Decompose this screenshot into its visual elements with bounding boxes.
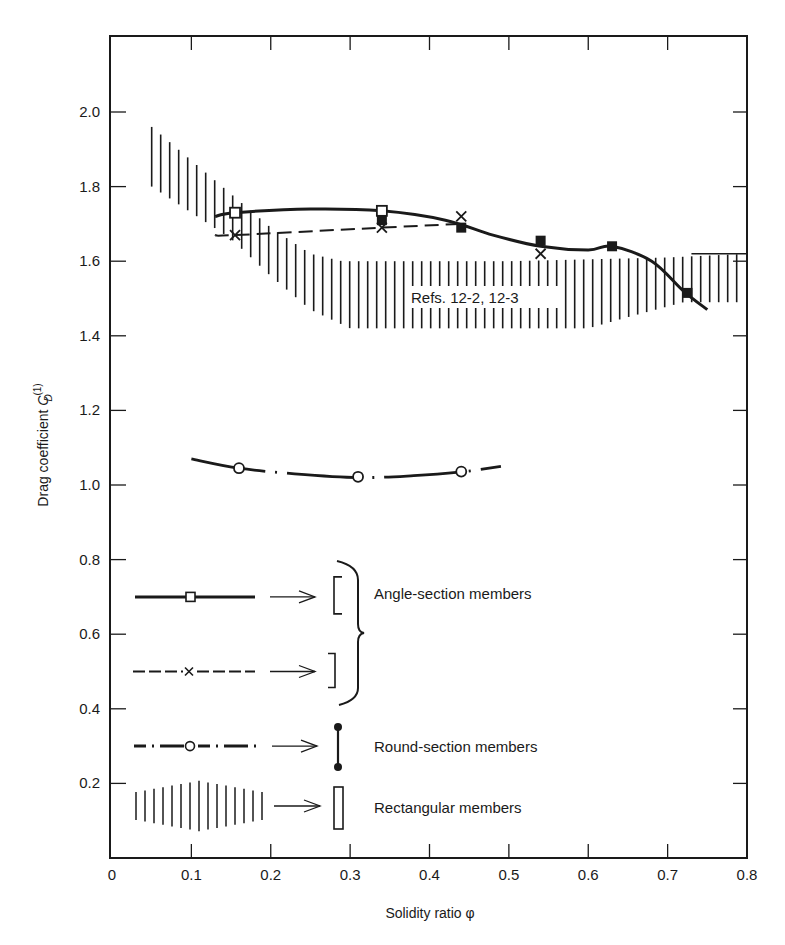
open-circle-marker [456,467,466,477]
x-tick-label: 0 [108,866,116,883]
axis-ticks: 00.10.20.30.40.50.60.70.80.20.40.60.81.0… [79,36,757,883]
x-axis-title: Solidity ratio φ [385,905,474,921]
angle-section-dashed-curve [215,224,461,236]
refs-annotation: Refs. 12-2, 12-3 [411,289,519,306]
x-tick-label: 0.3 [340,866,361,883]
x-tick-label: 0.1 [181,866,202,883]
x-tick-label: 0.5 [498,866,519,883]
rectangular-section-glyph [334,787,343,829]
x-tick-label: 0.7 [657,866,678,883]
angle-section-closed-glyph [328,654,335,688]
y-axis-title: Drag coefficient C(1)D [32,383,54,506]
x-marker [456,211,466,221]
svg-text:Drag coefficient C(1)D: Drag coefficient C(1)D [32,383,54,506]
axes-frame [110,36,747,858]
y-tick-label: 1.8 [79,178,100,195]
y-tick-label: 1.6 [79,252,100,269]
x-tick-label: 0.4 [419,866,440,883]
legend-label-angle: Angle-section members [374,585,532,602]
y-axis-title-sup: (1) [32,383,43,395]
y-axis-title-main: Drag coefficient [35,406,51,507]
y-tick-label: 0.6 [79,625,100,642]
filled-square-marker [682,288,692,298]
angle-section-brace [337,561,364,705]
x-marker [536,249,546,259]
drag-coefficient-chart: 00.10.20.30.40.50.60.70.80.20.40.60.81.0… [0,0,785,945]
open-square-marker [377,206,387,216]
angle-section-open-glyph [334,577,342,614]
y-tick-label: 2.0 [79,103,100,120]
y-tick-label: 1.2 [79,401,100,418]
y-axis-title-sub: D [43,394,54,401]
legend-label-rectangular: Rectangular members [374,799,522,816]
y-tick-label: 1.4 [79,327,100,344]
legend [133,561,364,831]
filled-square-marker [607,241,617,251]
y-tick-label: 0.2 [79,774,100,791]
legend-square-marker [186,592,195,601]
plot-frame [110,36,747,858]
open-square-marker [230,208,240,218]
open-circle-marker [353,472,363,482]
y-tick-label: 0.4 [79,700,100,717]
y-tick-label: 1.0 [79,476,100,493]
x-tick-label: 0.6 [578,866,599,883]
open-circle-marker [234,463,244,473]
y-tick-label: 0.8 [79,551,100,568]
filled-square-marker [536,236,546,246]
x-tick-label: 0.2 [260,866,281,883]
legend-circle-marker [186,742,195,751]
legend-label-round: Round-section members [374,738,537,755]
x-tick-label: 0.8 [737,866,758,883]
